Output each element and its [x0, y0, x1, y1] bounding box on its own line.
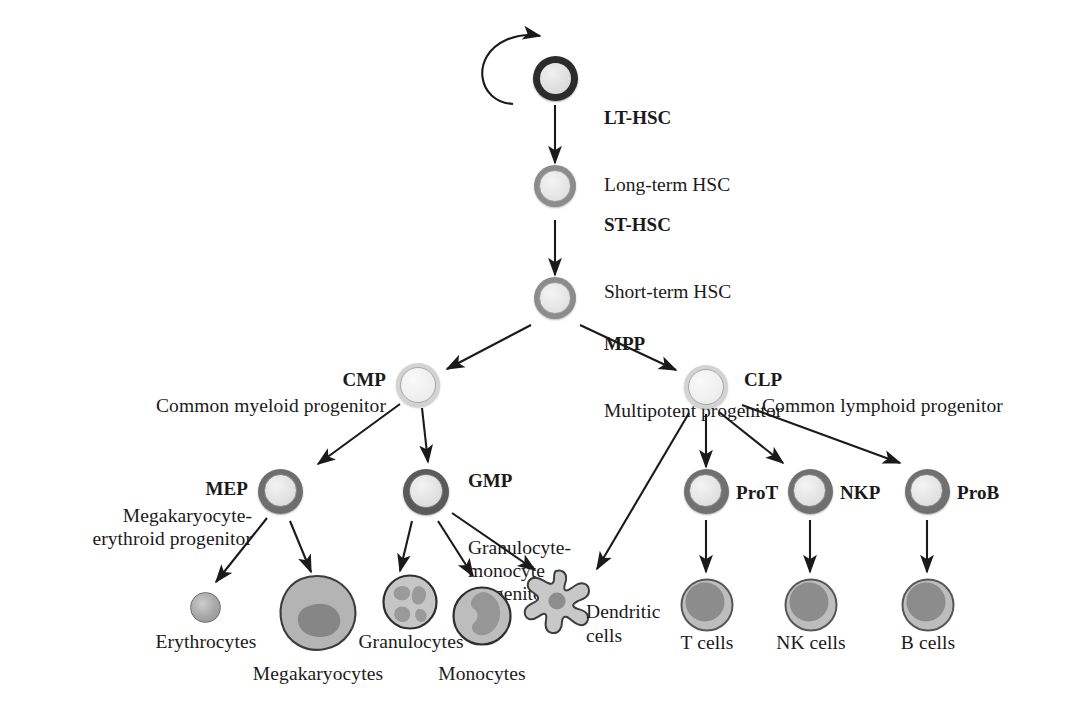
label-mep-abbr: MEP [205, 478, 248, 500]
label-t-cells: T cells [681, 631, 734, 654]
cell-cmp[interactable] [396, 363, 440, 407]
cell-clp[interactable] [684, 365, 728, 409]
label-dendritic-cells: Dendritic cells [586, 600, 661, 649]
label-mep-full: Megakaryocyte- erythroid progenitor [92, 504, 252, 550]
cell-nkp[interactable] [788, 469, 833, 514]
cell-t-lymphocyte[interactable] [679, 577, 735, 633]
label-b-cells: B cells [901, 631, 955, 654]
cell-b-lymphocyte[interactable] [900, 577, 956, 633]
cell-mpp-cytoplasm [539, 282, 571, 314]
label-nkp-abbr: NKP [840, 482, 880, 504]
cell-dendritic[interactable] [523, 568, 595, 638]
cell-nkp-cytoplasm [793, 474, 826, 507]
cell-prot[interactable] [684, 469, 729, 514]
cell-gmp[interactable] [403, 469, 449, 515]
label-nk-cells: NK cells [776, 631, 846, 654]
label-monocytes: Monocytes [438, 662, 526, 685]
cell-mpp[interactable] [534, 277, 576, 319]
label-mpp-abbr: MPP [604, 333, 782, 355]
cell-clp-cytoplasm [688, 369, 724, 405]
cell-granulocyte[interactable] [381, 573, 439, 631]
label-megakaryocytes: Megakaryocytes [253, 662, 383, 685]
cell-mep[interactable] [258, 469, 303, 514]
label-granulocytes: Granulocytes [358, 630, 463, 653]
cell-lt-hsc[interactable] [533, 56, 578, 101]
hematopoiesis-diagram: LT-HSC Long-term HSC ST-HSC Short-term H… [0, 0, 1075, 716]
cell-st-hsc-cytoplasm [539, 170, 571, 202]
cell-prob-cytoplasm [910, 474, 943, 507]
label-prot-abbr: ProT [736, 482, 778, 504]
cell-prot-cytoplasm [689, 474, 722, 507]
cell-cmp-cytoplasm [400, 367, 436, 403]
cell-erythrocyte[interactable] [190, 592, 221, 623]
cell-megakaryocyte[interactable] [276, 574, 360, 654]
cell-prob[interactable] [905, 469, 950, 514]
label-erythrocytes: Erythrocytes [156, 630, 257, 653]
cell-gmp-cytoplasm [409, 474, 443, 508]
cell-mep-cytoplasm [264, 474, 297, 507]
label-cmp-abbr: CMP [342, 369, 386, 391]
label-lt-hsc-abbr: LT-HSC [604, 107, 730, 129]
label-prob-abbr: ProB [957, 482, 999, 504]
cell-st-hsc[interactable] [534, 165, 576, 207]
label-st-hsc-abbr: ST-HSC [604, 214, 731, 236]
label-cmp-full: Common myeloid progenitor [156, 394, 386, 417]
label-clp-abbr: CLP [744, 369, 782, 391]
cell-monocyte[interactable] [451, 585, 513, 647]
cell-nk-lymphocyte[interactable] [783, 577, 839, 633]
label-gmp-abbr: GMP [468, 470, 571, 492]
label-clp-full: Common lymphoid progenitor [762, 394, 1003, 417]
cell-lt-hsc-cytoplasm [540, 63, 571, 94]
